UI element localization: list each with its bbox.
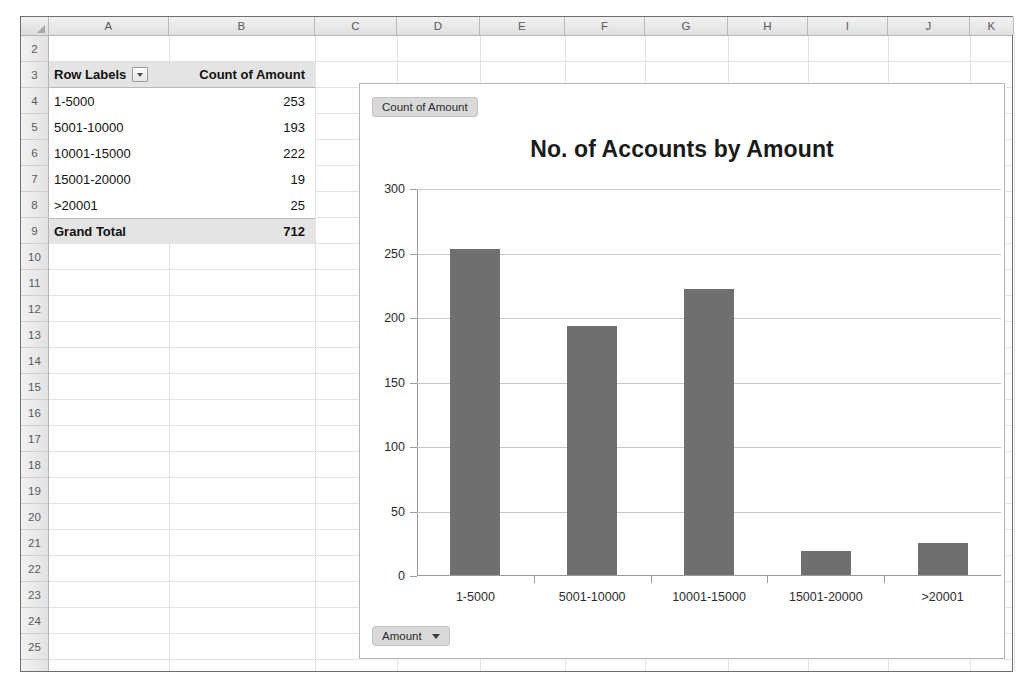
legend-field-button[interactable]: Count of Amount — [372, 97, 478, 117]
row-header-23[interactable]: 23 — [21, 582, 48, 608]
select-all-corner[interactable] — [21, 17, 49, 35]
row-header-11[interactable]: 11 — [21, 270, 48, 296]
pivot-row-count-text: 19 — [291, 172, 305, 187]
row-header-17[interactable]: 17 — [21, 426, 48, 452]
pivot-row-labels-header[interactable]: Row Labels — [49, 62, 169, 88]
pivot-row-label-text: >20001 — [54, 198, 98, 213]
row-header-label: 20 — [28, 511, 41, 523]
column-header-d[interactable]: D — [397, 17, 480, 35]
row-header-label: 4 — [31, 95, 37, 107]
row-header-15[interactable]: 15 — [21, 374, 48, 400]
row-header-label: 7 — [31, 173, 37, 185]
pivot-row-label[interactable]: >20001 — [49, 192, 169, 218]
axis-field-button[interactable]: Amount — [372, 626, 450, 646]
plot-area: 0501001502002503001-50005001-1000010001-… — [417, 189, 1001, 576]
column-header-k[interactable]: K — [970, 17, 1014, 35]
pivot-row-count[interactable]: 19 — [169, 166, 315, 192]
row-header-10[interactable]: 10 — [21, 244, 48, 270]
pivot-row-count-text: 25 — [291, 198, 305, 213]
y-axis-tick — [410, 383, 417, 384]
row-header-24[interactable]: 24 — [21, 608, 48, 634]
row-header-21[interactable]: 21 — [21, 530, 48, 556]
y-axis-tick — [410, 576, 417, 577]
filter-dropdown-icon[interactable] — [132, 67, 148, 82]
row-header-label: 10 — [28, 251, 41, 263]
column-header-i[interactable]: I — [808, 17, 888, 35]
column-header-a[interactable]: A — [49, 17, 169, 35]
pivot-row-label[interactable]: 10001-15000 — [49, 140, 169, 166]
row-header-2[interactable]: 2 — [21, 36, 48, 62]
pivot-grand-total-label[interactable]: Grand Total — [49, 218, 169, 244]
row-header-label: 25 — [28, 641, 41, 653]
pivot-grand-total-count[interactable]: 712 — [169, 218, 315, 244]
column-header-h[interactable]: H — [728, 17, 808, 35]
row-header-3[interactable]: 3 — [21, 62, 48, 88]
y-axis-tick-label: 150 — [384, 376, 405, 390]
row-header-7[interactable]: 7 — [21, 166, 48, 192]
column-header-row: ABCDEFGHIJK — [21, 17, 1012, 36]
column-header-e[interactable]: E — [480, 17, 565, 35]
pivot-row-label-text: 15001-20000 — [54, 172, 131, 187]
bar[interactable] — [801, 551, 851, 576]
pivot-row-label[interactable]: 1-5000 — [49, 88, 169, 114]
axis-field-button-label: Amount — [382, 630, 422, 642]
row-header-6[interactable]: 6 — [21, 140, 48, 166]
pivot-row-count[interactable]: 222 — [169, 140, 315, 166]
row-header-22[interactable]: 22 — [21, 556, 48, 582]
column-header-f[interactable]: F — [565, 17, 645, 35]
y-axis-tick-label: 100 — [384, 440, 405, 454]
column-header-label: H — [763, 20, 772, 32]
row-header-19[interactable]: 19 — [21, 478, 48, 504]
pivot-row-label[interactable]: 15001-20000 — [49, 166, 169, 192]
bar[interactable] — [567, 326, 617, 575]
row-header-label: 13 — [28, 329, 41, 341]
row-header-16[interactable]: 16 — [21, 400, 48, 426]
row-header-label: 2 — [31, 43, 37, 55]
row-header-14[interactable]: 14 — [21, 348, 48, 374]
pivot-grand-total-label-text: Grand Total — [54, 224, 126, 239]
row-header-8[interactable]: 8 — [21, 192, 48, 218]
x-axis-tick — [884, 576, 885, 583]
row-header-5[interactable]: 5 — [21, 114, 48, 140]
y-axis-tick — [410, 189, 417, 190]
row-header-12[interactable]: 12 — [21, 296, 48, 322]
y-axis-tick-label: 200 — [384, 311, 405, 325]
y-axis-tick — [410, 254, 417, 255]
column-header-label: K — [988, 20, 996, 32]
bar[interactable] — [918, 543, 968, 575]
row-header-13[interactable]: 13 — [21, 322, 48, 348]
column-header-c[interactable]: C — [315, 17, 397, 35]
y-gridline — [417, 189, 1001, 190]
row-header-25[interactable]: 25 — [21, 634, 48, 660]
column-header-label: B — [238, 20, 246, 32]
row-header-20[interactable]: 20 — [21, 504, 48, 530]
row-header-18[interactable]: 18 — [21, 452, 48, 478]
column-header-j[interactable]: J — [888, 17, 970, 35]
bar[interactable] — [450, 249, 500, 575]
row-header-label: 24 — [28, 615, 41, 627]
bar[interactable] — [684, 289, 734, 575]
y-axis-tick-label: 300 — [384, 182, 405, 196]
row-header-label: 9 — [31, 225, 37, 237]
pivot-row-count[interactable]: 193 — [169, 114, 315, 140]
row-header-label: 23 — [28, 589, 41, 601]
row-header-9[interactable]: 9 — [21, 218, 48, 244]
column-header-label: C — [351, 20, 360, 32]
pivot-value-header[interactable]: Count of Amount — [169, 62, 315, 88]
worksheet-frame: ABCDEFGHIJK 2345678910111213141516171819… — [20, 16, 1013, 672]
x-axis-tick — [767, 576, 768, 583]
excel-worksheet-screenshot: ABCDEFGHIJK 2345678910111213141516171819… — [0, 0, 1033, 689]
column-header-b[interactable]: B — [169, 17, 315, 35]
pivot-row-label[interactable]: 5001-10000 — [49, 114, 169, 140]
pivot-row-count[interactable]: 25 — [169, 192, 315, 218]
pivot-chart-object[interactable]: Count of Amount No. of Accounts by Amoun… — [359, 83, 1005, 659]
row-header-label: 21 — [28, 537, 41, 549]
column-header-g[interactable]: G — [645, 17, 728, 35]
row-header-label: 3 — [31, 69, 37, 81]
row-header-4[interactable]: 4 — [21, 88, 48, 114]
column-header-label: E — [518, 20, 526, 32]
pivot-row-label-text: 1-5000 — [54, 94, 94, 109]
row-header-label: 22 — [28, 563, 41, 575]
legend-field-button-label: Count of Amount — [382, 101, 468, 113]
pivot-row-count[interactable]: 253 — [169, 88, 315, 114]
